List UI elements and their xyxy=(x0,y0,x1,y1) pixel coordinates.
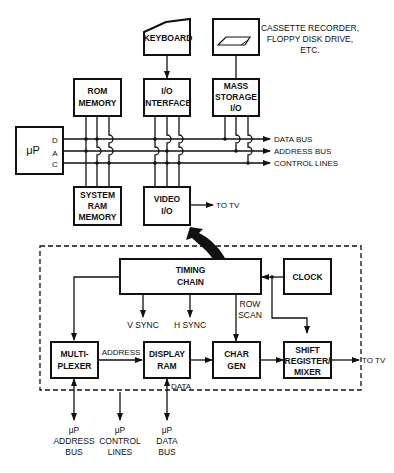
storage-caption-line-2: FLOPPY DISK DRIVE, xyxy=(267,34,353,44)
video-to-tv-label: TO TV xyxy=(216,201,240,210)
svg-text:TIMING: TIMING xyxy=(176,265,206,275)
svg-text:REGISTER/: REGISTER/ xyxy=(285,356,331,366)
storage-device-block xyxy=(213,19,259,55)
svg-text:INTERFACE: INTERFACE xyxy=(143,98,192,108)
svg-text:μP: μP xyxy=(69,425,80,435)
microprocessor-block: μP D A C xyxy=(16,127,63,174)
svg-text:SHIFT: SHIFT xyxy=(295,345,320,355)
svg-text:MIXER: MIXER xyxy=(294,367,321,377)
svg-text:μP: μP xyxy=(115,425,126,435)
svg-text:MEMORY: MEMORY xyxy=(79,212,117,222)
keyboard-label: KEYBOARD xyxy=(144,33,193,43)
rom-memory-block: ROM MEMORY xyxy=(74,79,121,116)
svg-text:CONTROL: CONTROL xyxy=(99,436,141,446)
svg-text:DATA: DATA xyxy=(156,436,178,446)
svg-text:BUS: BUS xyxy=(65,447,83,457)
detail-to-tv-label: TO TV xyxy=(362,356,386,365)
v-sync-label: V SYNC xyxy=(127,320,159,330)
control-lines-label: CONTROL LINES xyxy=(274,159,338,168)
svg-text:PLEXER: PLEXER xyxy=(57,361,91,371)
up-control-lines-label: μP CONTROL LINES xyxy=(99,425,141,457)
up-data-bus-label: μP DATA BUS xyxy=(156,425,178,457)
svg-text:C: C xyxy=(52,160,58,169)
svg-text:μP: μP xyxy=(162,425,173,435)
svg-text:μP: μP xyxy=(26,144,40,156)
svg-text:ADDRESS: ADDRESS xyxy=(53,436,94,446)
up-address-bus-label: μP ADDRESS BUS xyxy=(53,425,94,457)
row-scan-label-2: SCAN xyxy=(238,310,262,320)
storage-caption-line-1: CASSETTE RECORDER, xyxy=(261,23,359,33)
svg-text:CHAR: CHAR xyxy=(224,349,249,359)
svg-text:DISPLAY: DISPLAY xyxy=(149,349,185,359)
svg-text:RAM: RAM xyxy=(157,361,176,371)
svg-text:SYSTEM: SYSTEM xyxy=(80,190,115,200)
h-sync-label: H SYNC xyxy=(174,320,206,330)
address-bus-label: ADDRESS BUS xyxy=(274,147,331,156)
svg-text:MEMORY: MEMORY xyxy=(79,98,117,108)
svg-text:MASS: MASS xyxy=(224,81,249,91)
svg-text:I/O: I/O xyxy=(161,86,173,96)
multiplexer-block: MULTI- PLEXER xyxy=(51,342,98,378)
system-ram-block: SYSTEM RAM MEMORY xyxy=(74,187,121,225)
data-bus-label: DATA BUS xyxy=(274,135,312,144)
clock-block: CLOCK xyxy=(284,259,331,294)
row-scan-label-1: ROW xyxy=(240,299,261,309)
system-buses: DATA BUS ADDRESS BUS CONTROL LINES xyxy=(63,135,338,168)
microcomputer-video-block-diagram: KEYBOARD CASSETTE RECORDER, FLOPPY DISK … xyxy=(0,0,394,473)
timing-to-multiplexer-line xyxy=(74,277,120,340)
svg-text:ROM: ROM xyxy=(88,86,108,96)
timing-chain-block: TIMING CHAIN xyxy=(120,259,261,294)
svg-text:VIDEO: VIDEO xyxy=(154,194,181,204)
svg-text:GEN: GEN xyxy=(227,361,245,371)
address-label: ADDRESS xyxy=(102,348,141,357)
svg-text:RAM: RAM xyxy=(88,201,107,211)
svg-text:A: A xyxy=(52,149,58,158)
mass-storage-io-block: MASS STORAGE I/O xyxy=(213,79,259,116)
display-ram-block: DISPLAY RAM xyxy=(144,342,190,378)
keyboard-block: KEYBOARD xyxy=(144,19,193,55)
char-gen-block: CHAR GEN xyxy=(213,342,260,378)
shift-register-mixer-block: SHIFT REGISTER/ MIXER xyxy=(284,342,331,378)
svg-text:CLOCK: CLOCK xyxy=(292,272,323,282)
svg-text:CHAIN: CHAIN xyxy=(177,277,204,287)
svg-text:D: D xyxy=(52,136,58,145)
svg-text:STORAGE: STORAGE xyxy=(215,92,257,102)
svg-text:LINES: LINES xyxy=(108,447,133,457)
svg-text:MULTI-: MULTI- xyxy=(60,349,88,359)
io-interface-block: I/O INTERFACE xyxy=(143,79,192,116)
svg-text:I/O: I/O xyxy=(161,206,173,216)
data-label: DATA xyxy=(171,382,192,391)
storage-caption-line-3: ETC. xyxy=(300,45,319,55)
svg-text:BUS: BUS xyxy=(158,447,176,457)
svg-text:I/O: I/O xyxy=(230,103,242,113)
mass-storage-bus-taps xyxy=(223,116,252,165)
video-io-block: VIDEO I/O xyxy=(144,187,190,225)
